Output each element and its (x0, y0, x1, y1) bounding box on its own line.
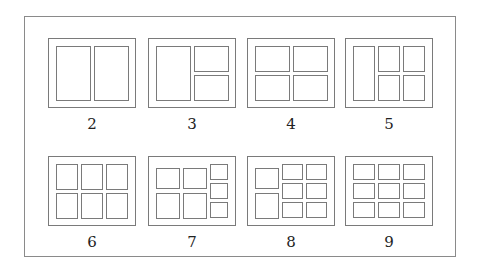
layout-cell (56, 193, 78, 219)
layout-count-label: 4 (247, 116, 335, 132)
layout-cell (194, 75, 229, 101)
layout-cell (378, 164, 400, 180)
layout-cell (353, 202, 375, 218)
layout-cell (183, 168, 207, 190)
layout-cell (378, 202, 400, 218)
layout-cell (194, 46, 229, 72)
layout-cell (282, 164, 303, 180)
layout-cell (282, 202, 303, 218)
layout-cell (106, 193, 128, 219)
layout-option-9: 9 (345, 156, 433, 256)
layout-cell (403, 75, 425, 101)
layout-cell (106, 164, 128, 190)
layout-cell (282, 183, 303, 199)
layout-option-8: 8 (247, 156, 335, 256)
layout-cell (293, 46, 328, 72)
layout-thumbnail (345, 38, 433, 108)
layout-cell (81, 193, 103, 219)
layout-cell (183, 193, 207, 219)
layout-cell (255, 193, 279, 219)
layout-count-label: 8 (247, 234, 335, 250)
layout-option-4: 4 (247, 38, 335, 138)
layout-cell (255, 75, 290, 101)
layout-thumbnail (48, 156, 136, 226)
layout-option-5: 5 (345, 38, 433, 138)
layout-cell (378, 183, 400, 199)
layout-cell (56, 46, 91, 101)
layout-cell (306, 202, 327, 218)
layout-thumbnail (148, 156, 236, 226)
layout-cell (94, 46, 129, 101)
layout-option-6: 6 (48, 156, 136, 256)
layout-cell (156, 168, 180, 190)
layout-cell (210, 164, 228, 180)
layout-cell (293, 75, 328, 101)
layout-cell (210, 183, 228, 199)
layout-cell (156, 46, 191, 101)
layout-cell (353, 183, 375, 199)
layout-cell (403, 183, 425, 199)
layout-cell (81, 164, 103, 190)
layout-thumbnail (247, 156, 335, 226)
layout-count-label: 7 (148, 234, 236, 250)
layout-cell (403, 164, 425, 180)
layout-count-label: 3 (148, 116, 236, 132)
layout-count-label: 5 (345, 116, 433, 132)
layout-cell (378, 75, 400, 101)
layout-cell (255, 168, 279, 190)
layout-option-3: 3 (148, 38, 236, 138)
layout-thumbnail (345, 156, 433, 226)
layout-cell (353, 46, 375, 101)
layout-cell (156, 193, 180, 219)
layout-count-label: 9 (345, 234, 433, 250)
layout-cell (255, 46, 290, 72)
layout-option-7: 7 (148, 156, 236, 256)
layout-cell (403, 46, 425, 72)
layout-thumbnail (247, 38, 335, 108)
layout-option-2: 2 (48, 38, 136, 138)
layout-count-label: 2 (48, 116, 136, 132)
layout-cell (353, 164, 375, 180)
layout-cell (378, 46, 400, 72)
layout-cell (56, 164, 78, 190)
layout-cell (306, 183, 327, 199)
layout-count-label: 6 (48, 234, 136, 250)
layout-cell (403, 202, 425, 218)
layout-thumbnail (148, 38, 236, 108)
layout-thumbnail (48, 38, 136, 108)
layout-cell (210, 202, 228, 218)
layout-cell (306, 164, 327, 180)
